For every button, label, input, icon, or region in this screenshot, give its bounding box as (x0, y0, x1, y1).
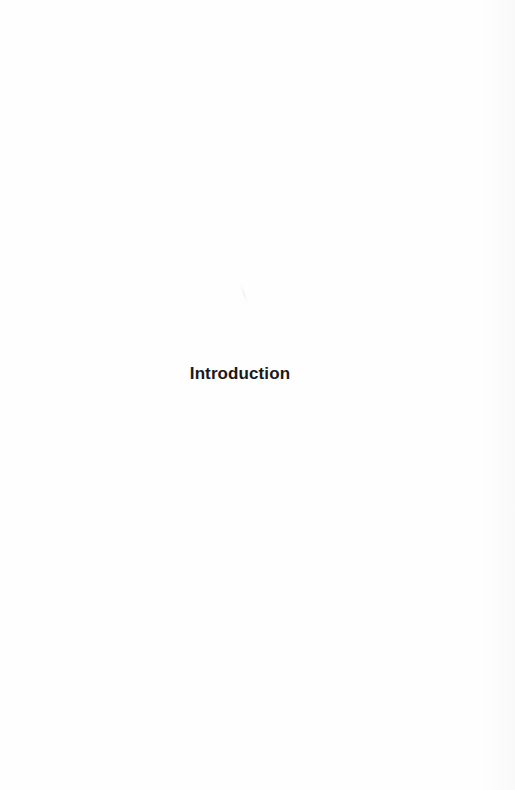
document-page: Introduction (0, 0, 515, 790)
scan-artifact (239, 283, 248, 304)
section-title: Introduction (0, 364, 480, 384)
